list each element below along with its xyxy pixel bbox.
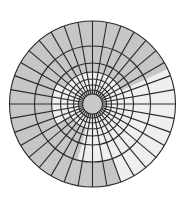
- graticule-svg: [0, 0, 186, 198]
- pole-disc-circle: [83, 94, 103, 114]
- pole-disc: [83, 94, 103, 114]
- polar-graticule-diagram: [0, 0, 186, 198]
